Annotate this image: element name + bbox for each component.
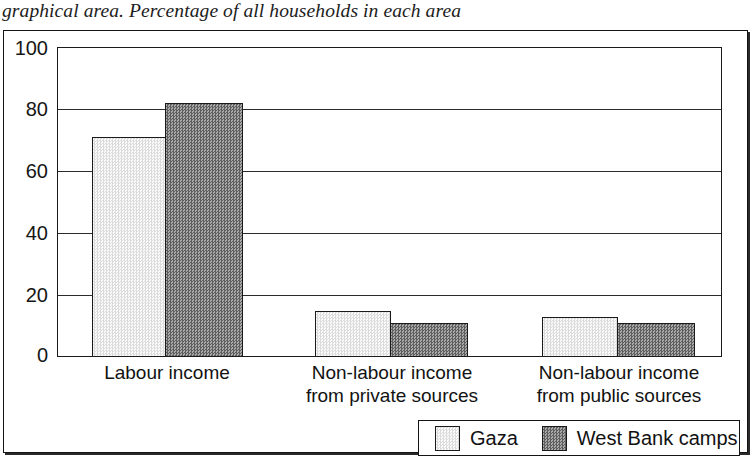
x-label-labour-income: Labour income <box>77 361 257 384</box>
x-label-non-labour-private: Non-labour income from private sources <box>282 361 502 407</box>
y-tick-80: 80 <box>0 99 48 119</box>
chart-legend: Gaza West Bank camps <box>418 420 740 456</box>
y-tick-20: 20 <box>0 285 48 305</box>
chart-caption: graphical area. Percentage of all househ… <box>2 0 742 24</box>
x-axis-labels: Labour income Non-labour income from pri… <box>57 361 722 416</box>
legend-swatch-gaza-icon <box>435 426 460 451</box>
y-tick-0: 0 <box>0 345 48 365</box>
bar-west-bank-camps-non-labour-public <box>617 323 695 357</box>
y-tick-40: 40 <box>0 223 48 243</box>
y-tick-60: 60 <box>0 161 48 181</box>
bar-west-bank-camps-labour-income <box>165 103 243 357</box>
legend-swatch-west-bank-camps-icon <box>542 426 567 451</box>
y-tick-100: 100 <box>0 38 48 58</box>
bar-group-container <box>57 47 722 357</box>
chart-page: graphical area. Percentage of all househ… <box>0 0 753 456</box>
x-label-non-labour-public: Non-labour income from public sources <box>509 361 729 407</box>
legend-item-west-bank-camps: West Bank camps <box>542 426 738 451</box>
legend-item-gaza: Gaza <box>435 426 518 451</box>
bar-west-bank-camps-non-labour-private <box>390 323 468 357</box>
bar-gaza-non-labour-private <box>315 311 391 358</box>
legend-label-gaza: Gaza <box>470 427 518 450</box>
y-axis: 100 80 60 40 20 0 <box>0 47 52 357</box>
bar-gaza-non-labour-public <box>542 317 618 357</box>
legend-label-west-bank-camps: West Bank camps <box>577 427 738 450</box>
bar-gaza-labour-income <box>92 137 166 357</box>
